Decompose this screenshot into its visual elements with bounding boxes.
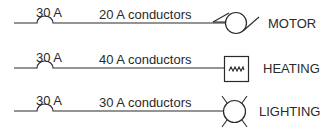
load-label: HEATING [263,61,320,76]
conductor-label: 20 A conductors [99,7,192,22]
circuit-diagram: 30 A 20 A conductors MOTOR 30 A 40 A con… [0,0,326,133]
circuit-lighting: 30 A 30 A conductors LIGHTING [14,93,320,127]
conductor-label: 40 A conductors [99,52,192,67]
circuit-heating: 30 A 40 A conductors HEATING [14,50,320,82]
breaker-label: 30 A [36,5,62,20]
load-label: LIGHTING [259,104,320,119]
breaker-label: 30 A [36,93,62,108]
lamp-icon [222,96,247,127]
load-label: MOTOR [268,16,316,31]
breaker-label: 30 A [36,50,62,65]
conductor-label: 30 A conductors [99,95,192,110]
heating-element-icon [225,57,249,82]
circuit-motor: 30 A 20 A conductors MOTOR [14,5,316,34]
